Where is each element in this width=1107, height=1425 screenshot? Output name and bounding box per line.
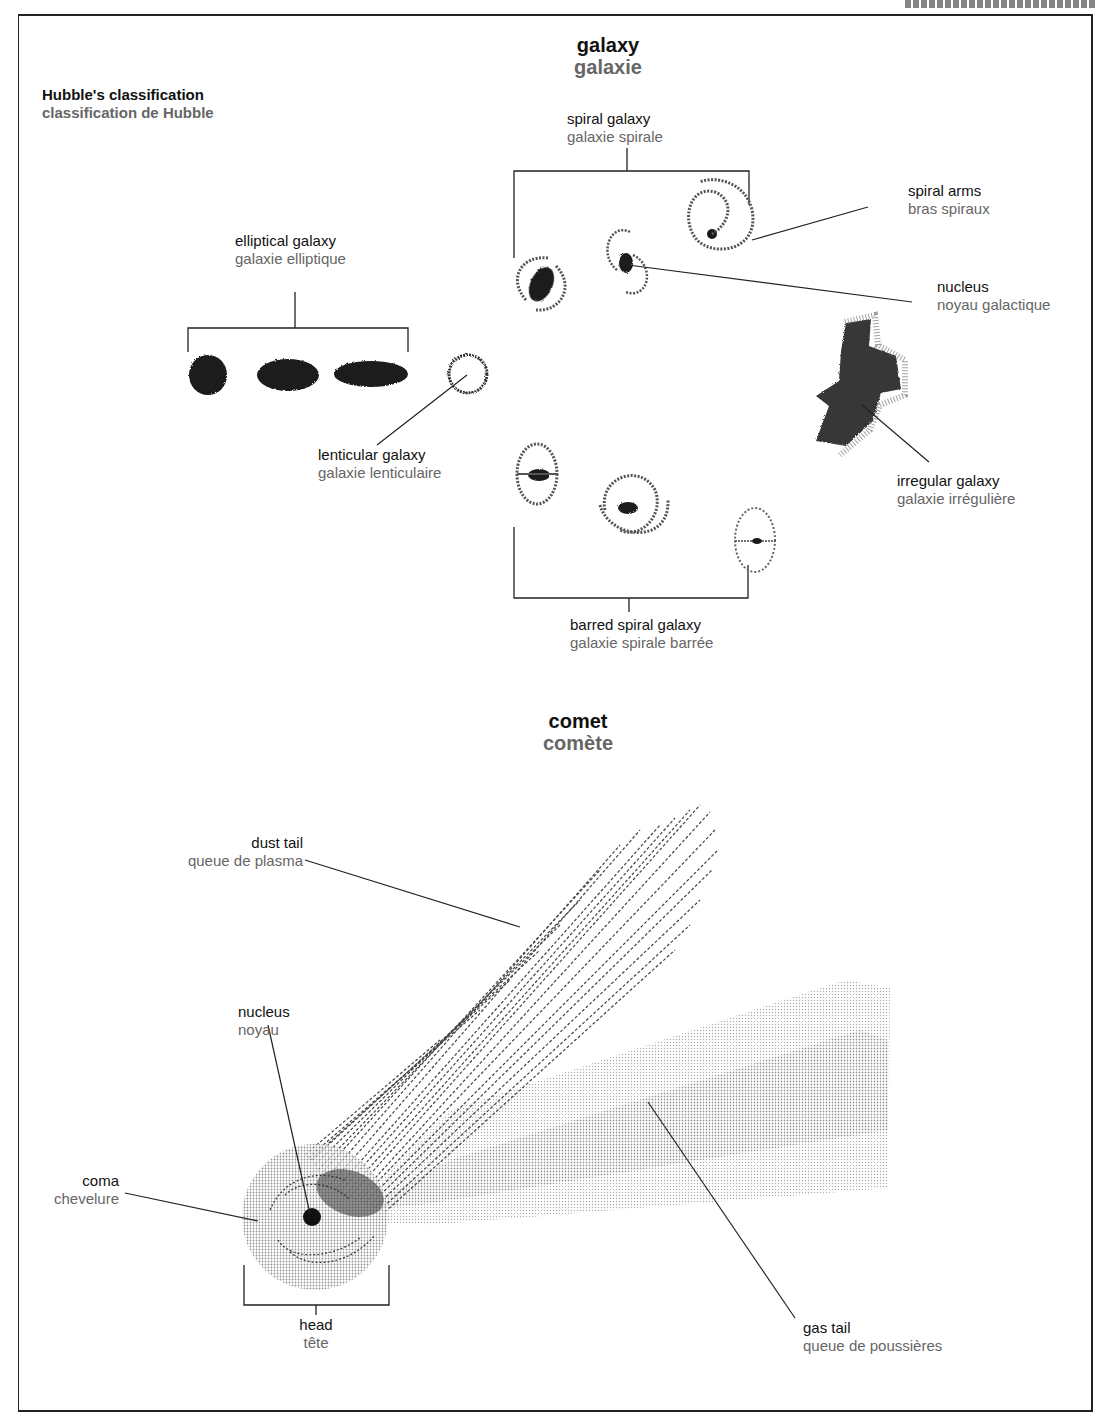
irregular-galaxy bbox=[815, 315, 929, 462]
galaxy-title: galaxy galaxie bbox=[528, 34, 688, 78]
barred-spiral-sba bbox=[517, 444, 558, 504]
spiral-galaxy-sa bbox=[517, 258, 565, 310]
barred-spiral-galaxy-group bbox=[514, 444, 775, 612]
label-barred-spiral-galaxy: barred spiral galaxy galaxie spirale bar… bbox=[570, 616, 713, 652]
comet-nucleus bbox=[303, 1208, 321, 1226]
label-en: nucleus bbox=[937, 278, 1050, 296]
label-spiral-arms: spiral arms bras spiraux bbox=[908, 182, 990, 218]
label-fr: noyau bbox=[238, 1021, 290, 1039]
label-dust-tail: dust tail queue de plasma bbox=[150, 834, 303, 870]
label-fr: galaxie spirale barrée bbox=[570, 634, 713, 652]
label-fr: galaxie lenticulaire bbox=[318, 464, 441, 482]
label-fr: queue de poussières bbox=[803, 1337, 942, 1355]
galaxy-title-en: galaxy bbox=[528, 34, 688, 56]
label-en: elliptical galaxy bbox=[235, 232, 346, 250]
elliptical-galaxy-e0 bbox=[188, 354, 226, 394]
label-comet-nucleus: nucleus noyau bbox=[238, 1003, 290, 1039]
spiral-galaxy-group bbox=[514, 148, 912, 310]
comet-illustration bbox=[125, 805, 890, 1318]
elliptical-galaxy-e7 bbox=[333, 360, 407, 386]
galaxy-title-fr: galaxie bbox=[528, 56, 688, 78]
label-fr: galaxie elliptique bbox=[235, 250, 346, 268]
hubble-heading-en: Hubble's classification bbox=[42, 86, 214, 104]
label-en: dust tail bbox=[150, 834, 303, 852]
label-en: coma bbox=[20, 1172, 119, 1190]
barred-spiral-sbb bbox=[600, 476, 668, 533]
comet-title-fr: comète bbox=[498, 732, 658, 754]
label-fr: queue de plasma bbox=[150, 852, 303, 870]
label-fr: galaxie spirale bbox=[567, 128, 663, 146]
spiral-galaxy-sc bbox=[689, 180, 753, 249]
label-en: spiral arms bbox=[908, 182, 990, 200]
label-fr: bras spiraux bbox=[908, 200, 990, 218]
comet-title-en: comet bbox=[498, 710, 658, 732]
label-en: lenticular galaxy bbox=[318, 446, 441, 464]
label-en: head bbox=[276, 1316, 356, 1334]
label-en: irregular galaxy bbox=[897, 472, 1015, 490]
comet-title: comet comète bbox=[498, 710, 658, 754]
elliptical-galaxy-e4 bbox=[256, 358, 318, 390]
label-irregular-galaxy: irregular galaxy galaxie irrégulière bbox=[897, 472, 1015, 508]
label-galactic-nucleus: nucleus noyau galactique bbox=[937, 278, 1050, 314]
label-fr: tête bbox=[276, 1334, 356, 1352]
hubble-classification-heading: Hubble's classification classification d… bbox=[42, 86, 214, 122]
label-en: spiral galaxy bbox=[567, 110, 663, 128]
label-fr: chevelure bbox=[20, 1190, 119, 1208]
label-gas-tail: gas tail queue de poussières bbox=[803, 1319, 942, 1355]
barred-spiral-sbc bbox=[735, 508, 775, 572]
spiral-galaxy-sb bbox=[607, 230, 647, 293]
label-en: gas tail bbox=[803, 1319, 942, 1337]
label-en: barred spiral galaxy bbox=[570, 616, 713, 634]
label-elliptical-galaxy: elliptical galaxy galaxie elliptique bbox=[235, 232, 346, 268]
label-fr: noyau galactique bbox=[937, 296, 1050, 314]
label-head: head tête bbox=[276, 1316, 356, 1352]
elliptical-galaxy-group bbox=[188, 292, 408, 394]
label-en: nucleus bbox=[238, 1003, 290, 1021]
hubble-heading-fr: classification de Hubble bbox=[42, 104, 214, 122]
label-lenticular-galaxy: lenticular galaxy galaxie lenticulaire bbox=[318, 446, 441, 482]
label-coma: coma chevelure bbox=[20, 1172, 119, 1208]
label-fr: galaxie irrégulière bbox=[897, 490, 1015, 508]
label-spiral-galaxy: spiral galaxy galaxie spirale bbox=[567, 110, 663, 146]
